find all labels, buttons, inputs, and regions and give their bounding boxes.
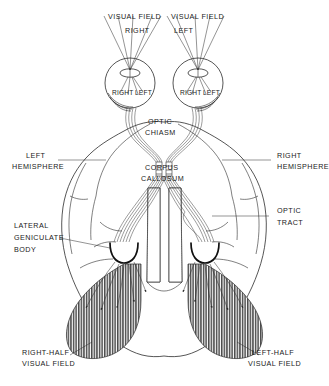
corpus-callosum-line2: CALLOSUM bbox=[141, 174, 184, 183]
right-half-visual-field-line1: RIGHT-HALF bbox=[22, 348, 69, 357]
right-half-visual-field-line2: VISUAL FIELD bbox=[22, 359, 75, 368]
left-hemisphere-line1: LEFT bbox=[26, 151, 46, 160]
visual-field-left-line2: LEFT bbox=[174, 26, 194, 35]
left-hemisphere-line2: HEMISPHERE bbox=[12, 162, 64, 171]
corpus-callosum-line1: CORPUS bbox=[145, 163, 178, 172]
right-hemisphere-line2: HEMISPHERE bbox=[277, 162, 329, 171]
visual-pathway-diagram: RIGHT LEFT RIGHT LEFT bbox=[0, 0, 329, 386]
left-half-visual-field-line2: VISUAL FIELD bbox=[248, 359, 301, 368]
visual-pathway-figure: RIGHT LEFT RIGHT LEFT bbox=[0, 0, 329, 386]
left-half-visual-field-line1: LEFT-HALF bbox=[252, 348, 294, 357]
optic-chiasm-line2: CHIASM bbox=[145, 128, 176, 137]
eye-right-label-left: LEFT bbox=[203, 89, 220, 96]
visual-field-left-line1: VISUAL FIELD bbox=[171, 12, 224, 21]
optic-tract-line1: OPTIC bbox=[277, 206, 301, 215]
eye-left-label-right: RIGHT bbox=[112, 89, 134, 96]
lateral-geniculate-line3: BODY bbox=[14, 245, 36, 254]
lateral-geniculate-line2: GENICULATE bbox=[14, 233, 64, 242]
visual-field-right-line2: RIGHT bbox=[125, 26, 150, 35]
eye-left-label-left: LEFT bbox=[135, 89, 152, 96]
right-hemisphere-line1: RIGHT bbox=[277, 151, 302, 160]
visual-field-right-line1: VISUAL FIELD bbox=[108, 12, 161, 21]
lateral-geniculate-line1: LATERAL bbox=[14, 221, 49, 230]
eye-right-label-right: RIGHT bbox=[180, 89, 202, 96]
optic-tract-line2: TRACT bbox=[277, 218, 303, 227]
optic-chiasm-line1: OPTIC bbox=[148, 117, 172, 126]
